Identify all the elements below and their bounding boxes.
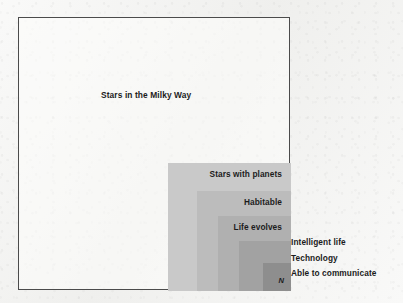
set-label-habitable: Habitable xyxy=(244,197,282,207)
outside-callout-labels: Intelligent life Technology Able to comm… xyxy=(291,235,401,282)
set-rect-able-to-communicate: N xyxy=(263,263,291,291)
figure-frame: Stars in the Milky Way Stars with planet… xyxy=(18,17,290,290)
set-label-stars-in-the-milky-way: Stars in the Milky Way xyxy=(101,90,191,100)
set-label-able-to-communicate: Able to communicate xyxy=(291,266,401,282)
set-label-n-symbol: N xyxy=(279,276,284,285)
set-label-technology: Technology xyxy=(291,251,401,267)
set-label-life-evolves: Life evolves xyxy=(234,222,282,232)
set-label-intelligent-life: Intelligent life xyxy=(291,235,401,251)
set-label-stars-with-planets: Stars with planets xyxy=(210,169,282,179)
